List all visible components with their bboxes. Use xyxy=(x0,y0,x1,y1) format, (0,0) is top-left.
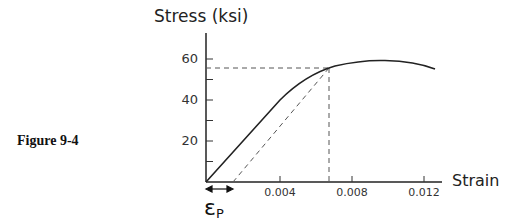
plastic-strain-arrow-icon xyxy=(206,186,233,192)
epsilon-subscript: P xyxy=(216,206,224,221)
epsilon-symbol: ε xyxy=(204,195,216,220)
y-tick-label-60: 60 xyxy=(168,51,198,66)
x-tick-label-0.012: 0.012 xyxy=(399,186,449,199)
x-ticks xyxy=(280,176,424,182)
offset-dashed-line xyxy=(233,68,329,182)
y-tick-label-20: 20 xyxy=(168,133,198,148)
x-tick-label-0.008: 0.008 xyxy=(327,186,377,199)
x-tick-label-0.004: 0.004 xyxy=(255,186,305,199)
y-ticks xyxy=(206,59,213,162)
y-tick-label-40: 40 xyxy=(168,92,198,107)
plastic-strain-label: εP xyxy=(204,195,224,221)
